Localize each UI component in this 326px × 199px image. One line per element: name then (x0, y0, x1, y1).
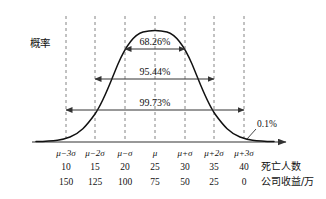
deaths-value-1: 15 (90, 162, 100, 172)
span-one-sigma-label: 68.26% (140, 36, 171, 47)
x-tick-symbol-0: μ−3σ (55, 148, 76, 158)
y-axis-label: 概率 (30, 37, 50, 49)
profit-value-2: 100 (118, 177, 133, 187)
deaths-row-label: 死亡人数 (261, 160, 301, 172)
profit-value-3: 75 (150, 177, 160, 187)
deaths-value-6: 40 (239, 162, 249, 172)
deaths-value-0: 10 (61, 162, 71, 172)
x-tick-symbol-4: μ+σ (176, 148, 193, 158)
profit-value-5: 25 (209, 177, 219, 187)
profit-value-4: 50 (180, 177, 190, 187)
deaths-value-4: 30 (180, 162, 190, 172)
deaths-value-3: 25 (150, 162, 160, 172)
deaths-value-2: 20 (120, 162, 130, 172)
x-tick-symbol-6: μ+3σ (233, 148, 254, 158)
span-three-sigma-label: 99.73% (140, 97, 171, 108)
span-two-sigma-label: 95.44% (140, 66, 171, 77)
profit-value-6: 0 (242, 177, 247, 187)
x-tick-row-deaths: 10 15 20 25 30 35 40 死亡人数 (61, 160, 301, 172)
x-tick-symbols: μ−3σ μ−2σ μ−σ μ μ+σ μ+2σ μ+3σ (55, 148, 254, 158)
x-tick-symbol-1: μ−2σ (84, 148, 105, 158)
x-tick-symbol-5: μ+2σ (203, 148, 224, 158)
profit-value-1: 125 (88, 177, 103, 187)
profit-row-label: 公司收益/万 (261, 175, 314, 187)
profit-value-0: 150 (59, 177, 74, 187)
normal-distribution-chart: 68.26% 95.44% 99.73% 0.1% 概率 μ−3σ μ−2σ μ… (0, 0, 326, 199)
x-tick-row-profit: 150 125 100 75 50 25 0 公司收益/万 (59, 175, 315, 187)
tail-annotation: 0.1% (247, 119, 277, 139)
x-tick-symbol-3: μ (152, 148, 158, 158)
deaths-value-5: 35 (209, 162, 219, 172)
x-tick-symbol-2: μ−σ (116, 148, 133, 158)
tail-leader-line (247, 129, 256, 139)
tail-percent-label: 0.1% (257, 119, 277, 129)
